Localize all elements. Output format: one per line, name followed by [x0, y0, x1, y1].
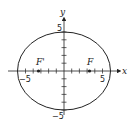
focus-point-f [88, 69, 91, 72]
focus-label-f-prime: F' [35, 57, 45, 67]
tick-label-x-5: 5 [100, 75, 105, 84]
ellipse-diagram: F' F x y −5 5 5 −5 [0, 0, 131, 120]
y-axis-label: y [59, 7, 66, 17]
focus-label-f: F [86, 57, 94, 67]
focus-point-f-prime [37, 69, 40, 72]
tick-label-y-5: 5 [57, 24, 62, 33]
tick-label-y-neg5: −5 [52, 112, 64, 120]
x-axis-label: x [122, 66, 127, 76]
tick-label-x-neg5: −5 [19, 75, 31, 84]
